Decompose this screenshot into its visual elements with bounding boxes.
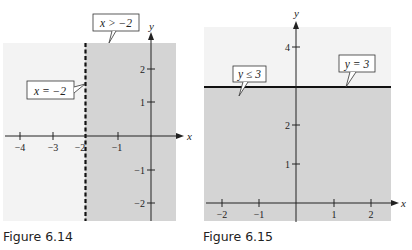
figure-caption: Figure 6.14 (3, 229, 73, 244)
region-label: x > −2 (99, 17, 132, 29)
x-tick-label: 1 (332, 209, 337, 220)
x-axis-label: x (400, 197, 406, 209)
y-tick-label: −2 (134, 198, 145, 209)
x-tick-label: −1 (254, 209, 265, 220)
y-axis-label: y (148, 20, 154, 32)
y-tick-label: −1 (134, 165, 145, 176)
x-tick-label: −3 (48, 142, 59, 153)
x-axis-arrow-icon (176, 133, 184, 139)
x-tick-label: −2 (75, 142, 86, 153)
boundary-label: x = −2 (33, 85, 66, 97)
y-tick-label: 2 (140, 64, 145, 75)
unshaded-region (3, 43, 85, 221)
figures-canvas: x y −4 −3 −2 −1 2 1 −1 −2 x > −2 x = −2 … (0, 0, 412, 250)
shaded-region (204, 87, 391, 221)
x-tick-label: −1 (112, 142, 123, 153)
y-axis-label: y (293, 7, 299, 19)
x-tick-label: 2 (369, 209, 374, 220)
region-label: y ≤ 3 (237, 68, 261, 81)
y-axis-arrow-icon (148, 32, 154, 40)
x-axis-arrow-icon (391, 200, 399, 206)
x-tick-label: −4 (15, 142, 26, 153)
figure-6-15-plot (204, 21, 399, 222)
boundary-label: y = 3 (344, 58, 370, 71)
figure-caption: Figure 6.15 (203, 229, 273, 244)
y-tick-label: 1 (285, 159, 290, 170)
y-axis-arrow-icon (293, 21, 299, 29)
y-tick-label: 4 (285, 42, 290, 53)
x-tick-label: −2 (217, 209, 228, 220)
y-tick-label: 2 (285, 120, 290, 131)
x-axis-label: x (186, 130, 192, 142)
y-tick-label: 1 (140, 97, 145, 108)
shaded-region (85, 43, 176, 221)
figure-6-14-plot (3, 32, 184, 221)
